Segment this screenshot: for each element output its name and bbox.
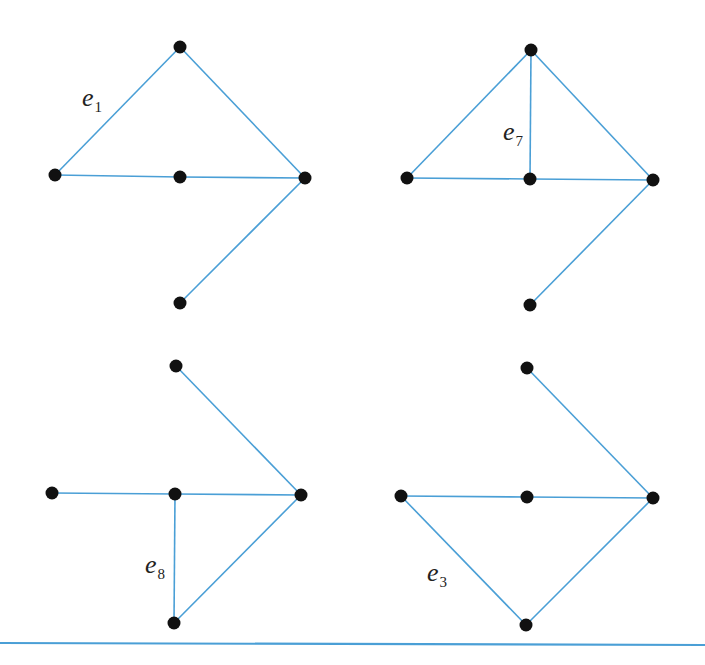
graph-top-left: e1 xyxy=(49,41,312,310)
vertex xyxy=(49,169,62,182)
graph-figure: e1e7e8e3 xyxy=(0,0,705,665)
edge xyxy=(180,178,305,303)
graphs-layer: e1e7e8e3 xyxy=(46,41,660,632)
edge-label: e1 xyxy=(82,83,102,115)
vertex xyxy=(647,174,660,187)
vertex xyxy=(525,44,538,57)
vertex xyxy=(299,172,312,185)
edge xyxy=(530,180,653,305)
graph-bottom-right: e3 xyxy=(395,362,660,632)
vertex xyxy=(174,41,187,54)
graph-top-right: e7 xyxy=(401,44,660,312)
vertex xyxy=(524,299,537,312)
vertex xyxy=(174,171,187,184)
edge xyxy=(180,47,305,178)
vertex xyxy=(647,492,660,505)
edge xyxy=(174,494,175,623)
edge xyxy=(407,50,531,178)
edge-label: e7 xyxy=(503,117,524,149)
vertex xyxy=(401,172,414,185)
vertex xyxy=(520,619,533,632)
vertex xyxy=(169,488,182,501)
edge xyxy=(174,495,301,623)
vertex xyxy=(46,487,59,500)
edge xyxy=(527,497,653,498)
edge-label: e3 xyxy=(427,558,447,590)
edge xyxy=(527,368,653,498)
edge xyxy=(180,177,305,178)
vertex xyxy=(170,360,183,373)
bottom-rule-divider xyxy=(0,643,705,645)
edge xyxy=(407,178,530,179)
edge xyxy=(401,496,527,497)
vertex xyxy=(521,491,534,504)
edge xyxy=(55,175,180,177)
edge xyxy=(175,494,301,495)
edge xyxy=(176,366,301,495)
edge xyxy=(55,47,180,175)
vertex xyxy=(174,297,187,310)
edge xyxy=(526,498,653,625)
edge xyxy=(530,50,531,179)
edge xyxy=(52,493,175,494)
vertex xyxy=(295,489,308,502)
graph-bottom-left: e8 xyxy=(46,360,308,630)
edge-label: e8 xyxy=(145,550,165,582)
vertex xyxy=(524,173,537,186)
edge xyxy=(531,50,653,180)
vertex xyxy=(521,362,534,375)
vertex xyxy=(395,490,408,503)
edge xyxy=(530,179,653,180)
vertex xyxy=(168,617,181,630)
edge xyxy=(401,496,526,625)
